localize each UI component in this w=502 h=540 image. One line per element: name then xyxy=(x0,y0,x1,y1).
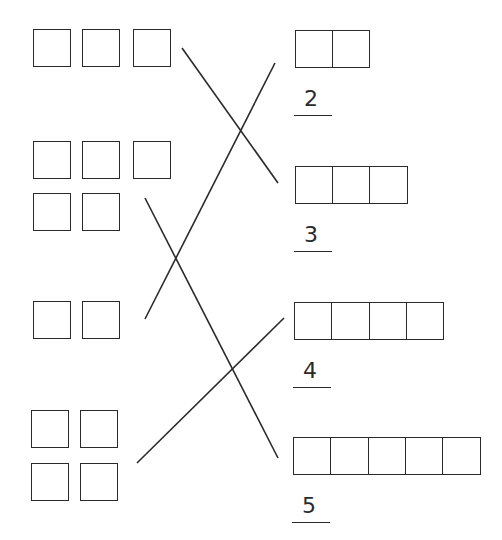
connection-line xyxy=(137,318,284,463)
connection-line xyxy=(145,63,275,319)
connection-line xyxy=(182,48,278,183)
connection-lines xyxy=(0,0,502,540)
connection-line xyxy=(145,198,278,458)
